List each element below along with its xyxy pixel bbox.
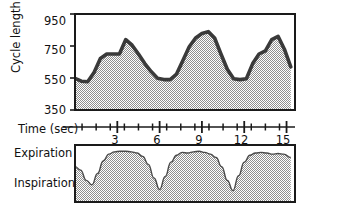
figure-svg (0, 0, 338, 209)
cycle-length-area (75, 32, 291, 110)
time-axis (63, 121, 295, 133)
figure-container: Cycle length (msec) 950 750 550 350 Time… (0, 0, 338, 209)
respiration-area (75, 151, 291, 202)
respiration-panel (75, 145, 295, 202)
cycle-length-panel (70, 14, 295, 110)
